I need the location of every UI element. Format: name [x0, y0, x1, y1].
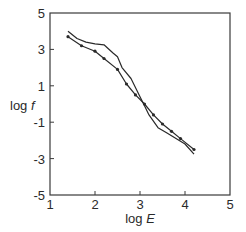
plot-frame [50, 13, 230, 195]
data-point-marker [80, 44, 83, 47]
data-point-marker [179, 137, 182, 140]
y-tick-label: 1 [38, 79, 45, 94]
data-point-marker [102, 57, 105, 60]
data-point-marker [93, 50, 96, 53]
data-point-marker [143, 102, 146, 105]
chart: 12345531-1-3-5 log E log f [0, 0, 246, 232]
y-axis-label: log f [10, 98, 36, 113]
data-point-marker [161, 122, 164, 125]
data-point-marker [66, 35, 69, 38]
data-series [66, 31, 195, 154]
y-tick-label: -5 [33, 188, 45, 203]
y-tick-label: -3 [33, 152, 45, 167]
data-point-marker [116, 68, 119, 71]
x-tick-label: 2 [91, 197, 98, 212]
series-line-2 [68, 37, 194, 150]
x-tick-label: 4 [181, 197, 188, 212]
tick-labels: 12345531-1-3-5 [33, 6, 233, 212]
y-tick-label: -1 [33, 115, 45, 130]
data-point-marker [134, 93, 137, 96]
data-point-marker [125, 82, 128, 85]
data-point-marker [170, 130, 173, 133]
series-line-1 [68, 31, 194, 154]
data-point-marker [152, 113, 155, 116]
x-tick-label: 1 [46, 197, 53, 212]
x-tick-label: 3 [136, 197, 143, 212]
y-tick-label: 5 [38, 6, 45, 21]
x-axis-label: log E [125, 211, 155, 226]
y-tick-label: 3 [38, 42, 45, 57]
data-point-marker [192, 148, 195, 151]
x-tick-label: 5 [226, 197, 233, 212]
axis-ticks [50, 49, 185, 195]
